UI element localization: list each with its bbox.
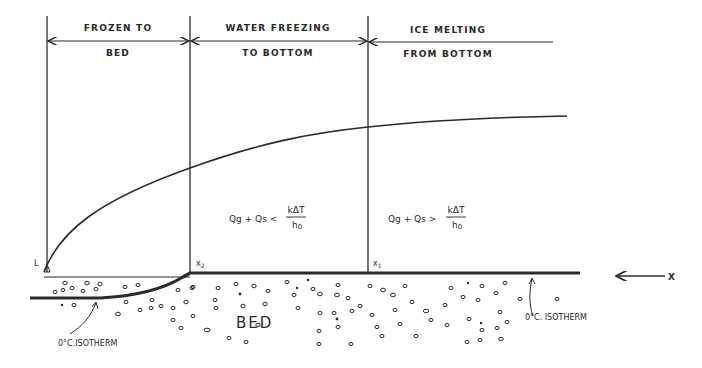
isotherm-left-label: 0°C.ISOTHERM [58,339,117,348]
zone1-label-line1: FROZEN TO [84,23,153,33]
isotherm-right-pointer [530,279,533,316]
svg-text:Qg + Qs >: Qg + Qs > [388,214,436,224]
zone1-label-line2: BED [106,48,130,58]
bed-label: BED [236,314,273,332]
zone2-label-line2: TO BOTTOM [242,48,313,58]
glacier-bed-diagram: FROZEN TO BED WATER FREEZING TO BOTTOM I… [0,0,702,368]
point-L-label: L [34,259,39,268]
zone2-label-line1: WATER FREEZING [225,23,330,33]
x-axis-label: X [668,272,676,282]
svg-text:h0: h0 [292,220,302,231]
svg-text:Qg + Qs <: Qg + Qs < [229,214,277,224]
point-x2-label: x2 [196,259,205,269]
isotherm-right-label: 0°C. ISOTHERM [525,313,587,322]
equation-zone3: Qg + Qs > kΔT h0 [388,205,466,231]
svg-text:h0: h0 [452,220,462,231]
ice-surface-curve [44,116,567,272]
bed-pebbles [53,280,559,345]
isotherm-left-pointer [70,303,96,334]
equation-zone2: Qg + Qs < kΔT h0 [229,205,306,231]
point-x1-label: x1 [373,259,382,269]
zone3-label-line1: ICE MELTING [410,25,486,35]
zone3-label-line2: FROM BOTTOM [403,49,493,59]
svg-text:kΔT: kΔT [448,205,465,215]
svg-text:kΔT: kΔT [288,205,305,215]
